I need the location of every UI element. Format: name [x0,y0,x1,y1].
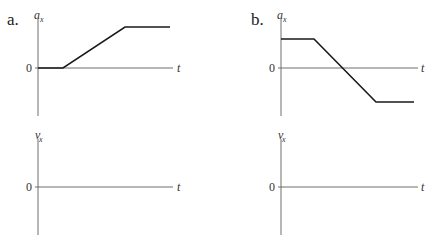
panel-a-label: a. [7,10,19,29]
b-v-t-axis-var: t [421,180,425,194]
panel-a: a. a x t 0 v x t 0 [7,8,181,235]
a-acceleration-curve [38,27,170,68]
b-zero-label: 0 [269,61,275,75]
a-zero-label: 0 [26,61,32,75]
panel-a-acceleration-graph: a x t 0 [26,8,181,116]
a-v-zero-label: 0 [26,180,32,194]
a-v-axis-sub: x [38,135,43,144]
b-v-zero-label: 0 [269,180,275,194]
b-acceleration-curve [281,39,414,102]
panel-a-velocity-graph: v x t 0 [26,128,181,235]
panel-b-acceleration-graph: a x t 0 [269,8,425,116]
a-y-axis-sub: x [39,15,44,24]
a-t-axis-var: t [177,61,181,75]
panel-b: b. a x t 0 v x t 0 [251,8,425,235]
b-v-axis-sub: x [281,135,286,144]
a-v-t-axis-var: t [177,180,181,194]
panel-b-velocity-graph: v x t 0 [269,128,425,235]
diagram-canvas: a. a x t 0 v x t 0 b. a x t [0,0,436,247]
b-y-axis-sub: x [282,15,287,24]
panel-b-label: b. [251,10,264,29]
b-t-axis-var: t [421,61,425,75]
